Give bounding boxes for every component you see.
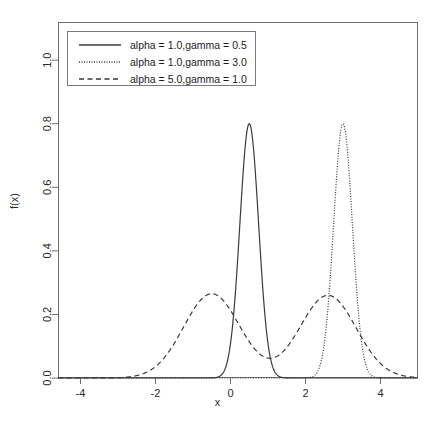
y-tick-label: 0.6: [41, 180, 53, 195]
y-tick-label: 0.2: [41, 307, 53, 322]
curve-dashed: [58, 294, 418, 378]
legend-item: alpha = 1.0,gamma = 0.5: [68, 36, 257, 53]
x-axis-title: x: [0, 396, 435, 408]
legend: alpha = 1.0,gamma = 0.5 alpha = 1.0,gamm…: [67, 31, 256, 86]
y-axis-ticks: [52, 60, 58, 378]
legend-line-solid-icon: [77, 39, 123, 51]
legend-line-dotted-icon: [77, 56, 123, 68]
legend-item: alpha = 1.0,gamma = 3.0: [68, 53, 257, 70]
legend-item-label: alpha = 5.0,gamma = 1.0: [130, 73, 247, 85]
y-tick-label: 0.8: [41, 116, 53, 131]
y-tick-label: 0.0: [41, 370, 53, 385]
legend-line-dashed-icon: [77, 73, 123, 85]
y-axis-tick-labels: 0.00.20.40.60.81.0: [41, 52, 53, 385]
y-axis-title: f(x): [8, 171, 20, 231]
y-tick-label: 1.0: [41, 52, 53, 67]
legend-item-label: alpha = 1.0,gamma = 3.0: [130, 56, 247, 68]
legend-item-label: alpha = 1.0,gamma = 0.5: [130, 39, 247, 51]
data-curves: [58, 124, 418, 378]
x-axis-ticks: [81, 378, 381, 384]
chart-root: -4-2024 0.00.20.40.60.81.0 x f(x) alpha …: [0, 0, 435, 429]
y-tick-label: 0.4: [41, 243, 53, 258]
legend-item: alpha = 5.0,gamma = 1.0: [68, 70, 257, 87]
curve-solid: [58, 124, 418, 378]
